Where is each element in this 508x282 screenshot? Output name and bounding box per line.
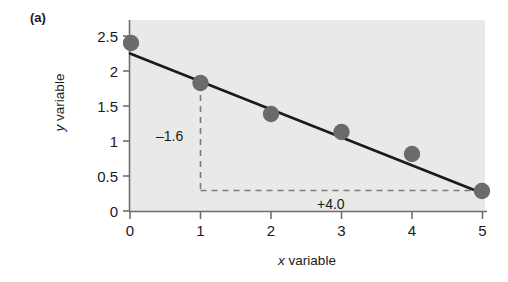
data-point [333,124,349,140]
x-tick-label-3: 3 [327,223,357,238]
scatter-plot-canvas [0,0,508,282]
y-axis-title-symbol: y [52,125,67,132]
data-point [123,35,139,51]
x-tick-label-1: 1 [186,223,216,238]
regression-line [130,54,483,194]
y-tick-label-2-5: 2.5 [78,29,118,44]
data-point [404,146,420,162]
y-tick-label-0: 0 [78,204,118,219]
x-axis-title: x variable [207,253,407,268]
y-axis-title-text: variable [52,74,67,125]
data-point [474,183,490,199]
y-tick-label-1: 1 [78,134,118,149]
data-point [263,106,279,122]
x-tick-label-5: 5 [468,223,498,238]
figure-panel-a: (a) [0,0,508,282]
x-tick-label-0: 0 [115,223,145,238]
y-tick-label-1-5: 1.5 [78,99,118,114]
x-tick-label-2: 2 [256,223,286,238]
run-annotation-label: +4.0 [317,196,345,212]
y-axis-title: y variable [52,43,67,163]
x-axis-title-text: variable [285,253,336,268]
x-axis-title-symbol: x [278,253,285,268]
y-tick-label-2: 2 [78,64,118,79]
x-tick-label-4: 4 [397,223,427,238]
rise-annotation-label: –1.6 [156,128,183,144]
y-tick-label-0-5: 0.5 [78,169,118,184]
data-point [192,75,208,91]
